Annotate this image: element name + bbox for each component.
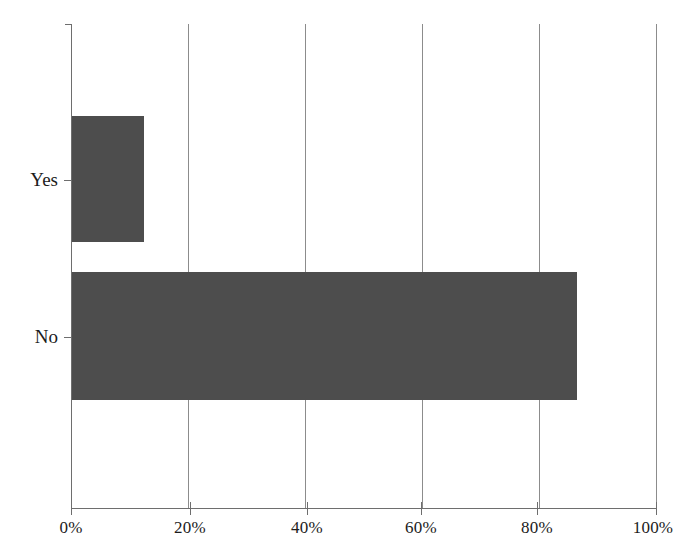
y-tick-yes: [64, 180, 72, 181]
x-tick-20: [190, 502, 191, 515]
gridline-40: [305, 24, 306, 508]
plot-area: [71, 24, 656, 508]
y-tick-label-no: No: [0, 326, 58, 348]
x-tick-label-60: 60%: [405, 518, 437, 538]
y-tick-no: [64, 337, 72, 338]
x-tick-label-0: 0%: [59, 518, 82, 538]
gridline-20: [188, 24, 189, 508]
bar-chart: 0% 20% 40% 60% 80% 100% Yes No: [0, 0, 689, 554]
x-tick-label-80: 80%: [521, 518, 553, 538]
gridline-80: [539, 24, 540, 508]
x-tick-label-40: 40%: [291, 518, 323, 538]
x-tick-60: [421, 502, 422, 515]
y-axis-top-cap: [65, 24, 72, 25]
x-tick-label-100: 100%: [633, 518, 673, 538]
gridline-60: [422, 24, 423, 508]
gridline-100: [656, 24, 657, 508]
x-axis-line: [71, 508, 657, 509]
x-tick-80: [537, 502, 538, 515]
x-tick-0: [71, 502, 72, 515]
x-tick-100: [656, 502, 657, 515]
y-axis-line: [71, 24, 72, 508]
x-tick-40: [307, 502, 308, 515]
bar-yes: [71, 116, 144, 242]
y-tick-label-yes: Yes: [0, 169, 58, 191]
x-tick-label-20: 20%: [174, 518, 206, 538]
bar-no: [71, 272, 577, 400]
